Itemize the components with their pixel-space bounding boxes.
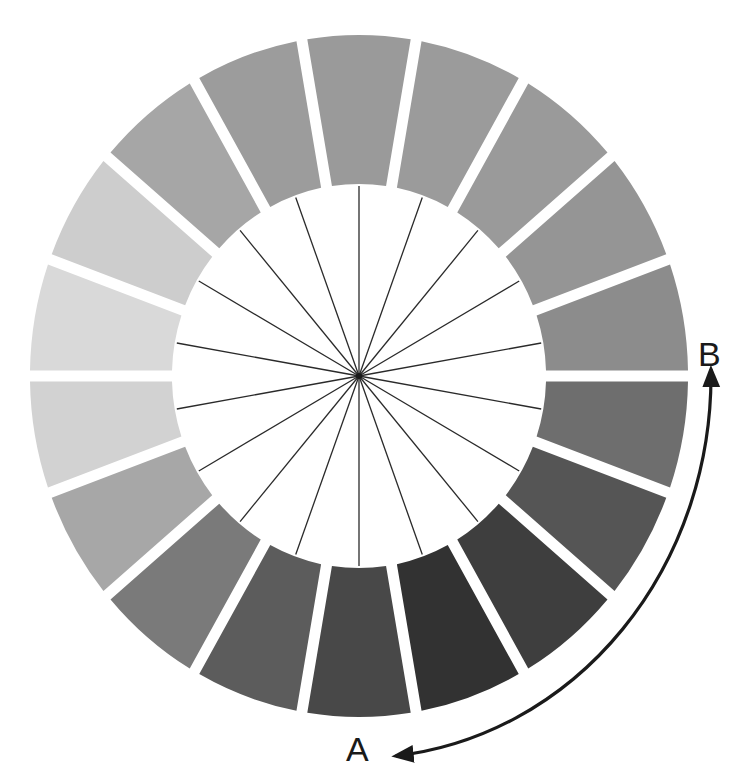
spoke-line	[296, 197, 359, 376]
spoke-line	[240, 230, 359, 376]
spoke-line	[359, 376, 422, 555]
spoke-line	[359, 376, 478, 522]
value-wheel-diagram	[0, 0, 746, 782]
label-a: A	[346, 732, 369, 766]
spoke-line	[359, 197, 422, 376]
spoke-line	[296, 376, 359, 555]
spoke-line	[240, 376, 359, 522]
center-hub	[356, 373, 362, 379]
wheel-segment	[307, 566, 410, 717]
label-b: B	[698, 337, 721, 371]
spoke-line	[359, 230, 478, 376]
wheel-segment	[307, 35, 410, 186]
